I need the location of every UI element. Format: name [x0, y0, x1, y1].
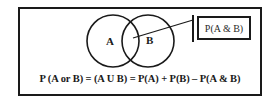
venn-circles — [0, 0, 273, 100]
venn-diagram: A B P(A & B) P (A or B) = (A U B) = P(A)… — [0, 0, 273, 100]
union-formula: P (A or B) = (A U B) = P(A) + P(B) – P(A… — [18, 73, 262, 84]
set-b-label: B — [146, 35, 153, 46]
set-a-label: A — [106, 36, 114, 47]
intersection-label-box: P(A & B) — [197, 16, 251, 40]
callout-pointer-line — [133, 20, 193, 38]
intersection-label: P(A & B) — [205, 23, 243, 34]
